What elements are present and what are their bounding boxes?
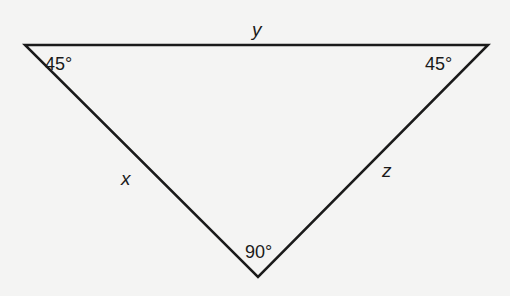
angle-top-left-label: 45° <box>45 54 72 74</box>
angle-top-right-label: 45° <box>425 54 452 74</box>
triangle-diagram: 45° 45° 90° y x z <box>0 0 510 296</box>
side-top-label: y <box>250 19 263 40</box>
side-left-label: x <box>120 168 132 189</box>
angle-bottom-label: 90° <box>245 242 272 262</box>
side-right-label: z <box>381 160 392 181</box>
